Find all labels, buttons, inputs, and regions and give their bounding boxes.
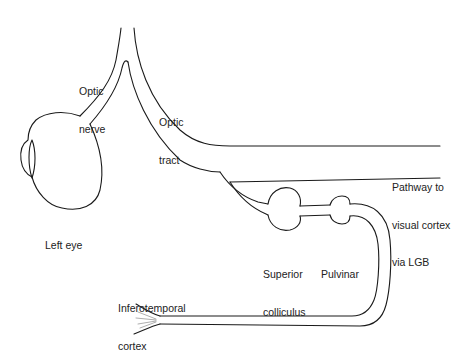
label-line: Optic <box>79 85 105 98</box>
label-pulvinar: Pulvinar <box>321 243 359 306</box>
label-line: cortex <box>118 340 186 353</box>
superior-colliculus-bulb <box>268 188 301 231</box>
label-line: Pathway to <box>392 181 450 194</box>
pulvinar-bulb <box>330 196 350 224</box>
label-line: Superior <box>263 268 306 281</box>
visual-pathway-diagram: Optic nerve Optic tract Left eye Pathway… <box>0 0 468 354</box>
label-line: nerve <box>79 123 105 136</box>
label-line: Inferotemporal <box>118 302 186 315</box>
label-line: colliculus <box>263 306 306 319</box>
label-inferotemporal-cortex: Inferotemporal cortex <box>118 277 186 354</box>
lens-icon <box>29 140 35 178</box>
label-line: tract <box>159 154 184 167</box>
label-left-eye: Left eye <box>45 214 82 277</box>
label-optic-nerve: Optic nerve <box>79 60 105 160</box>
label-optic-tract: Optic tract <box>159 91 184 191</box>
label-line: Pulvinar <box>321 268 359 281</box>
label-lgb-pathway: Pathway to visual cortex via LGB <box>392 156 450 294</box>
label-superior-colliculus: Superior colliculus <box>263 243 306 343</box>
label-line: Optic <box>159 116 184 129</box>
colliculus-pulvinar-tube <box>300 205 330 216</box>
label-line: visual cortex <box>392 219 450 232</box>
label-line: via LGB <box>392 256 450 269</box>
label-line: Left eye <box>45 239 82 252</box>
